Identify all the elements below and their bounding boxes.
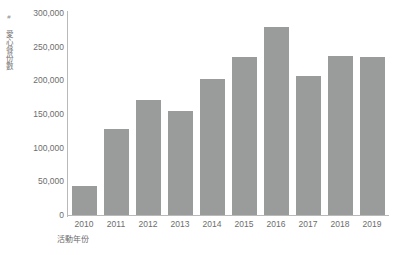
x-tick-label: 2018 bbox=[324, 219, 356, 229]
x-axis-line bbox=[67, 215, 389, 216]
bar-chart: # 愛心餐份數 300,000 250,000 200,000 150,000 … bbox=[0, 0, 396, 255]
bar-slot bbox=[100, 13, 132, 215]
bar-slot bbox=[68, 13, 100, 215]
y-tick-label: 300,000 bbox=[16, 8, 64, 18]
x-tick-label: 2014 bbox=[196, 219, 228, 229]
plot-area bbox=[68, 13, 388, 215]
bar-2019[interactable] bbox=[360, 57, 385, 215]
x-tick-label: 2013 bbox=[164, 219, 196, 229]
y-tick-label: 200,000 bbox=[16, 75, 64, 85]
x-tick-label: 2016 bbox=[260, 219, 292, 229]
bar-slot bbox=[164, 13, 196, 215]
x-axis-title: 活動年份 bbox=[57, 233, 89, 244]
y-tick-label: 150,000 bbox=[16, 109, 64, 119]
bar-2015[interactable] bbox=[232, 57, 257, 215]
bar-slot bbox=[292, 13, 324, 215]
y-tick-label: 250,000 bbox=[16, 42, 64, 52]
x-tick-label: 2012 bbox=[132, 219, 164, 229]
bar-slot bbox=[324, 13, 356, 215]
bar-slot bbox=[196, 13, 228, 215]
bar-slot bbox=[228, 13, 260, 215]
bar-slot bbox=[356, 13, 388, 215]
bar-slot bbox=[132, 13, 164, 215]
bar-2012[interactable] bbox=[136, 100, 161, 215]
y-axis-title-prefix: # bbox=[2, 14, 16, 21]
bar-2017[interactable] bbox=[296, 76, 321, 215]
y-axis-title: # 愛心餐份數 bbox=[2, 6, 16, 79]
x-tick-label: 2010 bbox=[68, 219, 100, 229]
bar-2016[interactable] bbox=[264, 27, 289, 215]
bar-2010[interactable] bbox=[72, 186, 97, 215]
y-tick-label: 50,000 bbox=[16, 176, 64, 186]
y-axis-tick-labels: 300,000 250,000 200,000 150,000 100,000 … bbox=[16, 0, 64, 255]
x-tick-label: 2011 bbox=[100, 219, 132, 229]
x-axis-tick-labels: 2010 2011 2012 2013 2014 2015 2016 2017 … bbox=[68, 219, 388, 229]
y-axis-title-text: 愛心餐份數 bbox=[5, 30, 14, 70]
bar-slot bbox=[260, 13, 292, 215]
x-tick-label: 2019 bbox=[356, 219, 388, 229]
bar-2018[interactable] bbox=[328, 56, 353, 215]
y-tick-label: 100,000 bbox=[16, 143, 64, 153]
x-tick-label: 2015 bbox=[228, 219, 260, 229]
bars-container bbox=[68, 13, 388, 215]
y-tick-label: 0 bbox=[16, 210, 64, 220]
bar-2014[interactable] bbox=[200, 79, 225, 215]
bar-2013[interactable] bbox=[168, 111, 193, 215]
x-tick-label: 2017 bbox=[292, 219, 324, 229]
bar-2011[interactable] bbox=[104, 129, 129, 215]
